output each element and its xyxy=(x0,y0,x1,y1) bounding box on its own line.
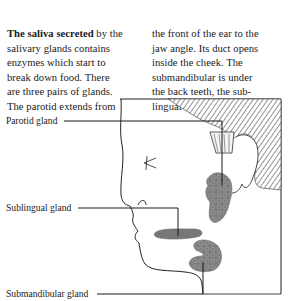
eye xyxy=(144,156,156,170)
submandibular-leader-line xyxy=(97,262,203,294)
label-sublingual-gland: Sublingual gland xyxy=(6,202,71,213)
parotid-gland xyxy=(206,173,232,223)
label-submandibular-gland: Submandibular gland xyxy=(6,288,88,299)
label-parotid-gland: Parotid gland xyxy=(6,115,57,126)
submandibular-gland xyxy=(189,240,221,272)
nostril xyxy=(138,201,146,206)
salivary-glands-diagram xyxy=(0,0,293,301)
parotid-leader-line xyxy=(64,121,222,185)
